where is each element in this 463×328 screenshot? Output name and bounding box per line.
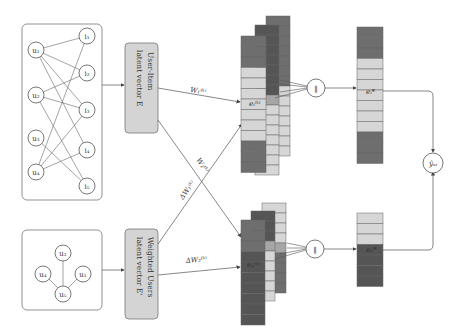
social-node-u5-label: u₅ [59,291,67,299]
embedding-cell [241,47,266,58]
label-w1: W₁⁽ᵏ⁾ [190,86,207,96]
embedding-cell [357,69,383,80]
bottom-embedding-stack: eᵤ⁽ᵏ⁾ [241,203,286,325]
edge-bottom-to-prediction [383,172,433,250]
item-node-i5-label: i₅ [84,183,89,191]
embedding-cell [241,152,266,163]
top-concat-symbol: ‖ [314,85,318,93]
bottom-stack-layer-1 [241,220,265,325]
embedding-cell [255,25,279,35]
embedding-cell [357,255,383,266]
embedding-cell [357,48,383,59]
diagram-canvas: u₁u₂u₃u₄i₁i₂i₃i₄i₅ User-Item latent vect… [0,0,463,328]
embedding-cell [241,294,265,305]
label-dw2: ΔW₂⁽ᵏ⁾ [184,255,207,265]
edge-dw2 [158,267,240,275]
embedding-cell [357,101,383,112]
prediction-label: ŷᵤᵢ [428,160,438,168]
label-w2: W₂⁽ᵏ⁾ [194,157,210,175]
label-dw1: ΔW₁⁽ᵏ⁾ [178,179,197,202]
embedding-cell [241,141,266,152]
weighted-users-label-2: latent vector E' [135,237,144,295]
embedding-cell [357,153,383,164]
embedding-cell [241,131,266,142]
item-node-i3-label: i₃ [84,107,89,115]
bottom-cell-label: eᵤ⁽ᵏ⁾ [247,261,260,269]
embedding-cell [266,16,290,26]
embedding-cell [241,57,266,68]
social-node-u4-label: u₄ [39,271,47,279]
embedding-cell [357,143,383,154]
user-item-label-1: User-Item [146,52,155,90]
embedding-cell [241,78,266,89]
social-node-u2-label: u₂ [59,250,67,258]
embedding-cell [357,27,383,38]
bottom-output-vector: eᵤ* [357,213,383,287]
embedding-cell [241,36,266,47]
embedding-cell [241,220,265,231]
embedding-cell [251,211,275,221]
embedding-cell [357,213,383,224]
embedding-cell [357,132,383,143]
weighted-users-label-1: Weighted Users [146,237,155,297]
user-node-u1-label: u₁ [32,47,40,55]
embedding-cell [357,224,383,235]
embedding-cell [241,231,265,242]
user-node-u3-label: u₃ [32,135,40,143]
embedding-cell [241,241,265,252]
edge-dw1-cross [158,124,242,244]
user-node-u2-label: u₂ [32,92,40,100]
bottom-concat-symbol: ‖ [313,246,317,254]
embedding-cell [357,266,383,277]
embedding-cell [357,111,383,122]
embedding-cell [357,38,383,49]
bottom-output-label: eᵤ* [366,246,377,254]
edge-top-to-prediction [383,91,433,152]
social-node-u1-label: u₁ [79,271,87,279]
user-node-u4-label: u₄ [32,169,40,177]
embedding-cell [241,304,265,315]
embedding-cell [241,110,266,121]
embedding-cell [357,276,383,287]
embedding-cell [241,120,266,131]
embedding-cell [241,315,265,326]
embedding-cell [241,162,266,173]
item-node-i1-label: i₁ [84,33,89,41]
top-cell-label: eᵢ⁽ᵏ⁾ [249,100,261,108]
top-embedding-stack: eᵢ⁽ᵏ⁾ [241,16,290,175]
top-output-label: eᵢ* [366,88,376,96]
user-item-label-2: latent vector E [135,50,144,106]
top-output-vector: eᵢ* [357,27,383,164]
item-node-i4-label: i₄ [84,147,89,155]
embedding-cell [241,283,265,294]
item-node-i2-label: i₂ [84,70,89,78]
embedding-cell [357,122,383,133]
embedding-cell [241,273,265,284]
embedding-cell [357,234,383,245]
embedding-cell [241,68,266,79]
edge-w2-cross [158,120,241,237]
embedding-cell [241,89,266,100]
embedding-cell [357,59,383,70]
